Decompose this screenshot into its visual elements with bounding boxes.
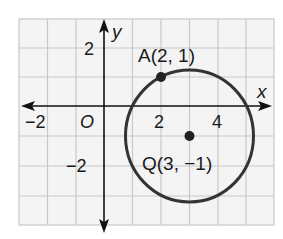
point-q-label: Q(3, −1) [142,153,212,174]
origin-label: O [80,112,94,132]
tick-label-x-neg2: −2 [25,112,46,132]
tick-label-y-neg2: −2 [66,156,87,176]
tick-label-x-4: 4 [212,112,222,132]
point-a-label: A(2, 1) [138,45,195,66]
tick-label-y-2: 2 [84,39,94,59]
point-q [185,131,195,141]
y-axis-label: y [110,21,123,42]
coordinate-plane: y x O 2 −2 −2 2 4 A(2, 1) Q(3, −1) [0,0,283,239]
point-a [156,72,166,82]
tick-label-x-2: 2 [154,112,164,132]
x-axis-label: x [256,81,268,102]
